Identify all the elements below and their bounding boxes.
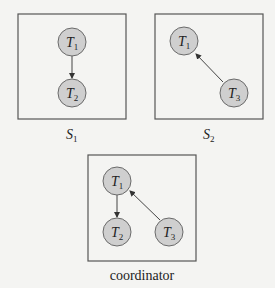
node-t1: T1: [58, 28, 86, 56]
node-t1: T1: [170, 27, 198, 55]
node-t1: T1: [103, 167, 131, 195]
site-s2-graph: T1 T3 S2: [155, 14, 263, 144]
node-t2: T2: [103, 218, 131, 246]
coordinator-caption: coordinator: [110, 268, 175, 283]
wait-for-graph-diagram: T1 T2 S1 T1 T3 S2 T1 T2: [0, 0, 275, 288]
node-t2: T2: [58, 79, 86, 107]
node-t3: T3: [155, 218, 183, 246]
coordinator-graph: T1 T2 T3 coordinator: [88, 155, 196, 283]
site-s2-caption: S2: [203, 127, 215, 144]
coordinator-box: [88, 155, 196, 261]
site-s1-graph: T1 T2 S1: [18, 14, 126, 144]
node-t3: T3: [220, 79, 248, 107]
site-s2-box: [155, 14, 263, 119]
site-s1-caption: S1: [66, 127, 78, 144]
edge-t3-to-t1: [130, 191, 160, 220]
edge-t3-to-t1: [196, 54, 223, 82]
